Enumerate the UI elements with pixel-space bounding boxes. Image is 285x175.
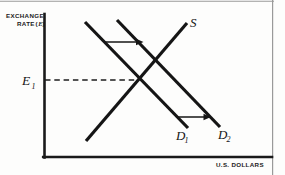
upper-shift-arrow	[105, 39, 144, 45]
equilibrium-label-subscript: 1	[32, 82, 36, 91]
y-axis-label-line1: EXCHANGE	[6, 12, 44, 19]
demand-curve-initial-subscript: 1	[185, 136, 189, 145]
figure-canvas: EXCHANGE RATE ( E ) U.S. DOLLARS E 1 S D…	[0, 0, 285, 175]
y-axis-label-paren-close: )	[42, 20, 44, 27]
demand-curve-shifted	[117, 20, 220, 127]
lower-shift-arrow	[177, 114, 211, 120]
demand-curve-shifted-subscript: 2	[227, 135, 231, 144]
y-axis-label-line2: RATE	[17, 20, 35, 27]
supply-curve-label: S	[190, 15, 197, 30]
equilibrium-label: E	[21, 73, 31, 88]
supply-demand-diagram: EXCHANGE RATE ( E ) U.S. DOLLARS E 1 S D…	[0, 0, 285, 175]
x-axis-label: U.S. DOLLARS	[216, 161, 264, 168]
